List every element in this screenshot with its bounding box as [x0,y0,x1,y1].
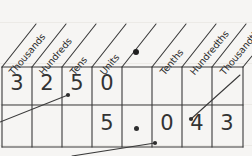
cell-row-one-hundreds: 2 [33,73,61,94]
cell-row-one-thousands: 3 [3,73,31,94]
cell-row-two-hundredths: 4 [183,113,211,134]
header-slant-8 [243,56,252,67]
cell-row-one-units: 0 [93,73,121,94]
pointer-line-row-one [0,95,68,122]
cell-row-two-tenths: 0 [153,113,181,134]
pointer-dot-row-two-tenths [153,141,157,145]
place-value-chart-image: Thousands Hundreds Tens Units Tenths Hun… [0,0,252,156]
header-slant-4 [122,24,156,67]
cell-row-two-decimal-point [134,126,139,131]
cell-row-two-thousandths: 3 [213,113,241,134]
header-decimal-point-dot [133,49,139,55]
cell-row-one-tens: 5 [63,73,91,94]
cell-row-two-units: 5 [93,113,121,134]
pointer-line-row-two-tenths [72,143,155,156]
